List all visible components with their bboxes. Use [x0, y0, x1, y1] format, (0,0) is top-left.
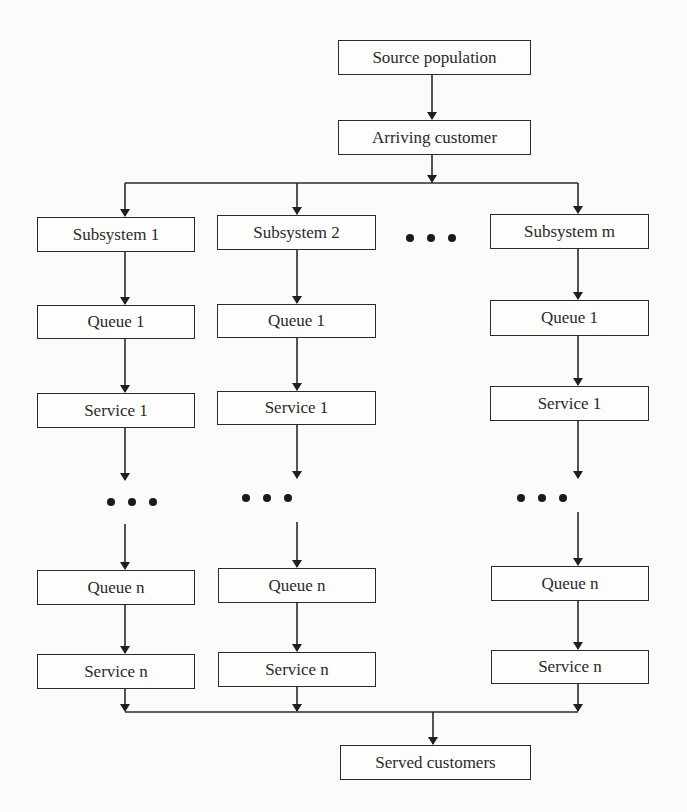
subsystem-1-queue-n-box: Queue n: [37, 570, 195, 605]
subsystem-m-queue-1-box: Queue 1: [490, 300, 649, 336]
queue-label: Queue n: [541, 574, 598, 594]
subsystem-1-box: Subsystem 1: [37, 217, 195, 252]
subsystem-m-service-n-box: Service n: [491, 650, 649, 684]
queue-label: Queue 1: [268, 311, 325, 331]
service-label: Service 1: [538, 394, 602, 414]
ellipsis-dot: [263, 494, 271, 502]
subsystem-2-service-1-box: Service 1: [217, 391, 376, 425]
ellipsis-dot: [559, 494, 567, 502]
ellipsis-dot: [242, 494, 250, 502]
ellipsis-dot: [517, 494, 525, 502]
subsystem-label: Subsystem m: [524, 222, 615, 242]
subsystem-2-queue-n-box: Queue n: [218, 568, 376, 603]
ellipsis-dot: [406, 234, 414, 242]
subsystem-2-service-n-box: Service n: [218, 652, 376, 687]
served-customers-box: Served customers: [340, 745, 531, 780]
arriving-customer-box: Arriving customer: [338, 120, 531, 155]
subsystem-m-box: Subsystem m: [490, 214, 649, 249]
service-label: Service 1: [265, 398, 329, 418]
subsystem-m-stage-ellipsis: [517, 494, 567, 502]
subsystem-1-stage-ellipsis: [107, 498, 157, 506]
subsystem-1-service-n-box: Service n: [37, 654, 195, 689]
service-label: Service n: [538, 657, 602, 677]
queue-label: Queue n: [87, 578, 144, 598]
queue-label: Queue 1: [87, 312, 144, 332]
ellipsis-dot: [149, 498, 157, 506]
ellipsis-dot: [427, 234, 435, 242]
served-customers-label: Served customers: [375, 753, 495, 773]
service-label: Service n: [84, 662, 148, 682]
subsystems-ellipsis: [406, 234, 456, 242]
subsystem-m-queue-n-box: Queue n: [491, 566, 649, 601]
source-population-label: Source population: [372, 48, 496, 68]
subsystem-m-service-1-box: Service 1: [490, 386, 649, 421]
ellipsis-dot: [284, 494, 292, 502]
subsystem-2-stage-ellipsis: [242, 494, 292, 502]
queue-label: Queue 1: [541, 308, 598, 328]
ellipsis-dot: [448, 234, 456, 242]
source-population-box: Source population: [338, 40, 531, 75]
service-label: Service n: [265, 660, 329, 680]
subsystem-label: Subsystem 2: [253, 223, 339, 243]
ellipsis-dot: [538, 494, 546, 502]
arriving-customer-label: Arriving customer: [372, 128, 497, 148]
queue-label: Queue n: [268, 576, 325, 596]
ellipsis-dot: [107, 498, 115, 506]
service-label: Service 1: [84, 401, 148, 421]
subsystem-label: Subsystem 1: [73, 225, 159, 245]
subsystem-2-box: Subsystem 2: [217, 215, 376, 250]
subsystem-1-queue-1-box: Queue 1: [37, 305, 195, 339]
queueing-system-diagram: Source population Arriving customer Subs…: [0, 0, 687, 812]
subsystem-2-queue-1-box: Queue 1: [217, 304, 376, 338]
ellipsis-dot: [128, 498, 136, 506]
subsystem-1-service-1-box: Service 1: [37, 393, 195, 428]
